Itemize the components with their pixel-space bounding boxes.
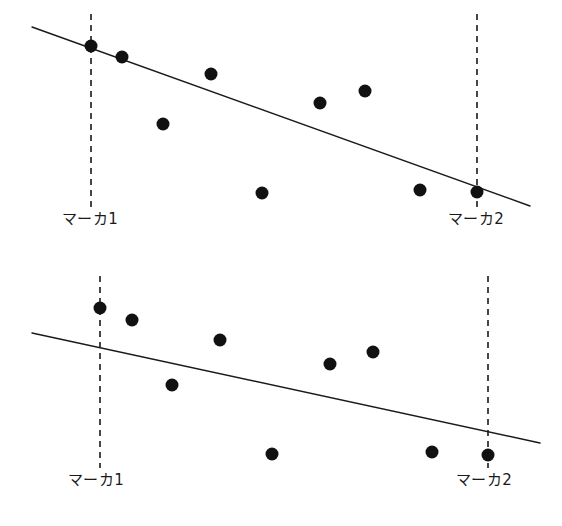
data-point (157, 118, 170, 131)
data-point (166, 379, 179, 392)
marker-2-label-top: マーカ2 (448, 212, 504, 227)
marker-1-label-bottom: マーカ1 (68, 473, 124, 488)
data-point (116, 51, 129, 64)
data-point (324, 358, 337, 371)
marker-2-label-bottom: マーカ2 (456, 473, 512, 488)
trend-line (32, 333, 540, 443)
scatter-chart-bottom: マーカ1 マーカ2 (0, 263, 562, 526)
data-point (205, 68, 218, 81)
trend-line (32, 27, 530, 206)
data-point (471, 186, 484, 199)
data-point (426, 446, 439, 459)
data-point (126, 314, 139, 327)
data-point (256, 187, 269, 200)
data-point (214, 334, 227, 347)
data-point (482, 449, 495, 462)
figure-root: マーカ1 マーカ2 マーカ1 マーカ2 (0, 0, 562, 526)
data-point (314, 97, 327, 110)
data-point (359, 85, 372, 98)
data-point (367, 346, 380, 359)
data-point (414, 184, 427, 197)
data-point (94, 302, 107, 315)
marker-1-label-top: マーカ1 (62, 212, 118, 227)
data-point (266, 448, 279, 461)
scatter-chart-top: マーカ1 マーカ2 (0, 0, 562, 263)
data-point (85, 40, 98, 53)
